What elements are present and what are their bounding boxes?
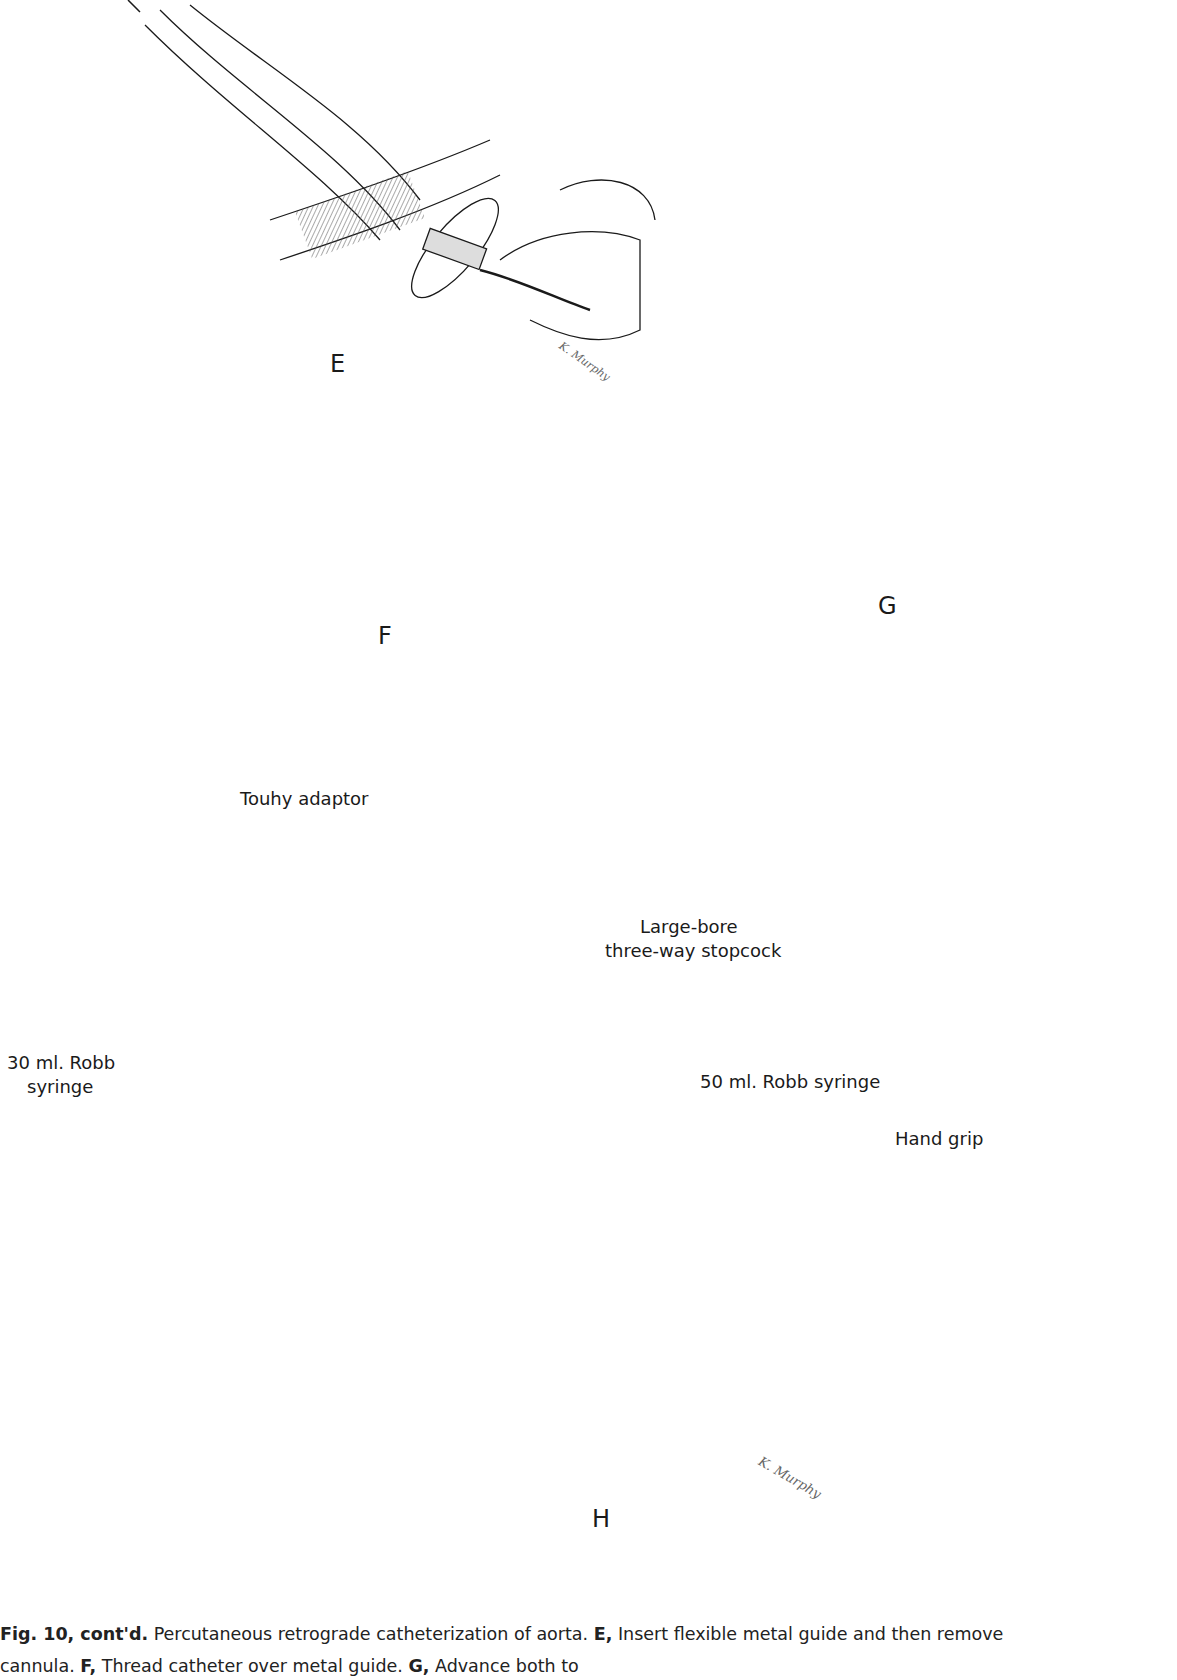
caption-ref-g: G, — [408, 1656, 429, 1676]
figure-caption: Fig. 10, cont'd. Percutaneous retrograde… — [0, 1618, 1060, 1680]
label-touhy-adaptor: Touhy adaptor — [240, 788, 369, 810]
caption-ref-e: E, — [594, 1624, 613, 1644]
panel-label-e: E — [330, 350, 345, 378]
label-stopcock-line1: Large-bore — [640, 916, 738, 938]
caption-text: Percutaneous retrograde catheterization … — [148, 1624, 594, 1644]
panel-label-h: H — [592, 1505, 610, 1533]
caption-text-g: Advance both to — [429, 1656, 578, 1676]
caption-figure-ref: Fig. 10, cont'd. — [0, 1624, 148, 1644]
panel-label-g: G — [878, 592, 897, 620]
label-hand-grip: Hand grip — [895, 1128, 983, 1150]
label-stopcock-line2: three-way stopcock — [605, 940, 781, 962]
panel-label-f: F — [378, 622, 392, 650]
label-50ml-syringe: 50 ml. Robb syringe — [700, 1071, 880, 1093]
panel-e-drawing — [128, 0, 655, 340]
caption-ref-f: F, — [80, 1656, 96, 1676]
caption-text-f: Thread catheter over metal guide. — [96, 1656, 408, 1676]
label-30ml-syringe-line1: 30 ml. Robb — [7, 1052, 115, 1074]
label-30ml-syringe-line2: syringe — [27, 1076, 93, 1098]
